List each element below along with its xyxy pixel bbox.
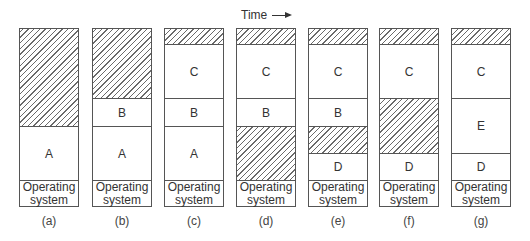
- os-block: Operating system: [379, 180, 439, 207]
- process-block-e: E: [451, 98, 511, 154]
- memory-column-a: A Operating system: [19, 28, 79, 207]
- memory-column-c: C B A Operating system: [164, 28, 224, 207]
- os-label-line2: system: [103, 194, 141, 207]
- process-label: A: [118, 147, 126, 161]
- process-label: D: [334, 160, 343, 174]
- os-label-line1: Operating: [383, 181, 436, 194]
- hole-block: [308, 28, 368, 45]
- os-label-line2: system: [390, 194, 428, 207]
- hole-block: [236, 28, 296, 45]
- process-block-a: A: [19, 126, 79, 181]
- os-label-line2: system: [247, 194, 285, 207]
- hole-block: [236, 126, 296, 181]
- hole-block: [308, 126, 368, 154]
- process-block-b: B: [92, 98, 152, 127]
- right-arrow-icon: [272, 15, 290, 16]
- hole-block: [379, 98, 439, 154]
- hole-block: [164, 28, 224, 45]
- process-label: C: [477, 65, 486, 79]
- os-block: Operating system: [236, 180, 296, 207]
- process-block-c: C: [236, 44, 296, 99]
- caption-e: (e): [308, 214, 368, 228]
- caption-b: (b): [92, 214, 152, 228]
- process-block-b: B: [164, 98, 224, 127]
- os-label-line1: Operating: [168, 181, 221, 194]
- process-label: B: [334, 106, 342, 120]
- process-block-c: C: [379, 44, 439, 99]
- process-block-c: C: [164, 44, 224, 99]
- process-block-b: B: [236, 98, 296, 127]
- os-label-line2: system: [319, 194, 357, 207]
- process-label: D: [405, 160, 414, 174]
- caption-d: (d): [236, 214, 296, 228]
- os-label-line1: Operating: [23, 181, 76, 194]
- os-label-line2: system: [175, 194, 213, 207]
- process-block-a: A: [92, 126, 152, 181]
- os-block: Operating system: [92, 180, 152, 207]
- process-block-c: C: [451, 44, 511, 99]
- time-label: Time: [241, 8, 267, 22]
- process-label: D: [477, 160, 486, 174]
- os-block: Operating system: [164, 180, 224, 207]
- os-block: Operating system: [451, 180, 511, 207]
- os-block: Operating system: [308, 180, 368, 207]
- memory-column-d: C B Operating system: [236, 28, 296, 207]
- process-label: B: [262, 106, 270, 120]
- process-block-d: D: [451, 153, 511, 181]
- process-label: A: [45, 147, 53, 161]
- os-label-line1: Operating: [312, 181, 365, 194]
- hole-block: [451, 28, 511, 45]
- process-block-c: C: [308, 44, 368, 99]
- caption-c: (c): [164, 214, 224, 228]
- caption-g: (g): [451, 214, 511, 228]
- os-label-line2: system: [462, 194, 500, 207]
- process-block-d: D: [308, 153, 368, 181]
- os-label-line1: Operating: [240, 181, 293, 194]
- process-block-d: D: [379, 153, 439, 181]
- memory-column-f: C D Operating system: [379, 28, 439, 207]
- memory-column-e: C B D Operating system: [308, 28, 368, 207]
- process-label: E: [477, 119, 485, 133]
- os-label-line1: Operating: [96, 181, 149, 194]
- os-block: Operating system: [19, 180, 79, 207]
- memory-column-g: C E D Operating system: [451, 28, 511, 207]
- process-label: C: [334, 65, 343, 79]
- hole-block: [379, 28, 439, 45]
- caption-f: (f): [379, 214, 439, 228]
- process-label: C: [262, 65, 271, 79]
- memory-column-b: B A Operating system: [92, 28, 152, 207]
- process-label: C: [405, 65, 414, 79]
- os-label-line2: system: [30, 194, 68, 207]
- process-label: B: [190, 106, 198, 120]
- process-label: C: [190, 65, 199, 79]
- process-label: B: [118, 106, 126, 120]
- hole-block: [19, 28, 79, 127]
- caption-a: (a): [19, 214, 79, 228]
- os-label-line1: Operating: [455, 181, 508, 194]
- process-label: A: [190, 147, 198, 161]
- hole-block: [92, 28, 152, 99]
- process-block-a: A: [164, 126, 224, 181]
- process-block-b: B: [308, 98, 368, 127]
